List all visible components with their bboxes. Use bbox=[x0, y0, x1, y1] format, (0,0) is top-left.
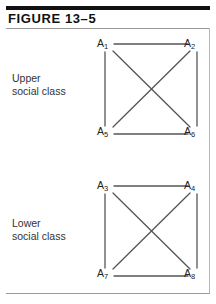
caption-upper-line-2: social class bbox=[12, 85, 66, 98]
node-label-upper-bottom-right: A6 bbox=[184, 125, 195, 137]
bottom-rule bbox=[6, 293, 210, 294]
node-label-upper-top-left: A1 bbox=[97, 37, 108, 49]
node-label-lower-top-left: A3 bbox=[97, 179, 108, 191]
graph-lower-social-class: A3 A4 A7 A8 bbox=[92, 172, 210, 288]
caption-lower-social-class: Lower social class bbox=[12, 217, 66, 243]
node-label-upper-bottom-left: A5 bbox=[97, 125, 108, 137]
caption-upper-line-1: Upper bbox=[12, 72, 66, 85]
node-label-lower-top-right: A4 bbox=[184, 179, 195, 191]
caption-lower-line-1: Lower bbox=[12, 217, 66, 230]
node-label-lower-bottom-left: A7 bbox=[97, 267, 108, 279]
node-label-upper-top-right: A2 bbox=[184, 37, 195, 49]
figure-container: FIGURE 13–5 Upper social class A1 A2 A5 … bbox=[0, 0, 216, 304]
top-rule bbox=[6, 6, 210, 10]
caption-upper-social-class: Upper social class bbox=[12, 72, 66, 98]
title-underline-rule bbox=[6, 28, 210, 29]
graph-upper-social-class: A1 A2 A5 A6 bbox=[92, 30, 210, 146]
node-label-lower-bottom-right: A8 bbox=[184, 267, 195, 279]
figure-title: FIGURE 13–5 bbox=[8, 11, 96, 26]
caption-lower-line-2: social class bbox=[12, 230, 66, 243]
